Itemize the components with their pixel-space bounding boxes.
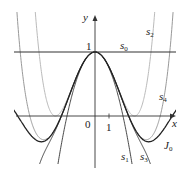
label-s0: s0	[120, 39, 128, 53]
curve-s3	[0, 52, 186, 176]
x-axis-label: x	[171, 117, 177, 129]
label-s4: s4	[159, 90, 167, 104]
label-s3: s3	[140, 150, 148, 164]
y-axis-label: y	[82, 11, 88, 23]
origin-label: 0	[85, 118, 91, 130]
y-tick-label-1: 1	[86, 40, 92, 52]
curves	[0, 0, 186, 176]
label-J0: J0	[164, 139, 173, 153]
x-tick-label-1: 1	[106, 121, 112, 133]
label-s1: s1	[121, 150, 129, 164]
y-axis-arrow-icon	[93, 15, 98, 21]
curve-s1	[0, 52, 186, 176]
bessel-taylor-chart: y x 1 0 1 s0 s2 s4 J0 s1 s3	[0, 0, 186, 176]
